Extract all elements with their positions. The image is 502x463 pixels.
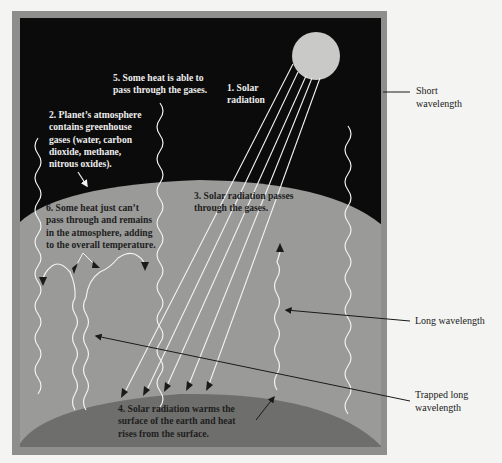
step-4-label: 4. Solar radiation warms the surface of … xyxy=(118,403,236,440)
step-2-label: 2. Planet’s atmosphere contains greenhou… xyxy=(49,109,141,170)
step-3-label: 3. Solar radiation passes through the ga… xyxy=(194,190,294,215)
sun-icon xyxy=(292,32,340,80)
trapped-long-wavelength-label: Trapped long wavelength xyxy=(415,389,468,414)
long-wavelength-label: Long wavelength xyxy=(415,315,485,328)
step-1-label: 1. Solar radiation xyxy=(227,82,265,107)
short-wavelength-label: Short wavelength xyxy=(416,85,462,110)
step-5-label: 5. Some heat is able to pass through the… xyxy=(113,72,207,97)
step-6-label: 6. Some heat just can’t pass through and… xyxy=(46,202,156,251)
